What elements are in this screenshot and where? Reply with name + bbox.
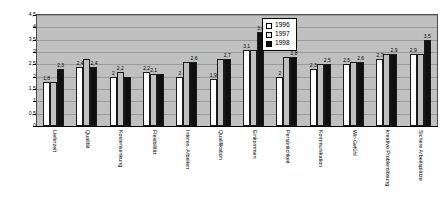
bar-1996[interactable] bbox=[410, 54, 417, 126]
bar-1997[interactable] bbox=[150, 74, 157, 126]
category-slot: Kostensenkung bbox=[104, 128, 137, 214]
bar-1998[interactable] bbox=[390, 54, 397, 126]
bar-1997[interactable] bbox=[417, 54, 424, 126]
x-axis-category-labels: LieferzeitQualitätKostensenkungFlexibili… bbox=[37, 128, 437, 214]
bar-slot bbox=[217, 15, 224, 126]
x-axis-baseline bbox=[36, 126, 438, 127]
bar-group: 1,82,3 bbox=[37, 15, 70, 126]
bar-1998[interactable] bbox=[190, 62, 197, 126]
bar-value-label: 2,2 bbox=[117, 66, 124, 71]
bar-value-label: 2 bbox=[179, 71, 182, 76]
category-slot: kreative Problemlösung bbox=[370, 128, 403, 214]
light-gray-square-swatch-icon bbox=[266, 32, 272, 38]
bar-slot: 1,8 bbox=[43, 15, 50, 126]
bar-1996[interactable] bbox=[76, 67, 83, 126]
chart-legend[interactable]: 1996 1997 1998 bbox=[262, 18, 297, 51]
bar-1997[interactable] bbox=[350, 62, 357, 126]
y-axis-tick-label: 0 bbox=[2, 123, 36, 128]
bar-slot bbox=[183, 15, 190, 126]
y-axis-tick-label: 3,5 bbox=[2, 37, 36, 42]
bar-value-label: 2,1 bbox=[150, 68, 157, 73]
bar-slot: 2 bbox=[176, 15, 183, 126]
bar-value-label: 2,3 bbox=[310, 63, 317, 68]
bar-1997[interactable] bbox=[217, 59, 224, 126]
bar-slot: 2,2 bbox=[143, 15, 150, 126]
bar-1996[interactable] bbox=[43, 82, 50, 126]
legend-label: 1996 bbox=[275, 22, 290, 29]
bar-1996[interactable] bbox=[176, 77, 183, 126]
bar-1996[interactable] bbox=[376, 59, 383, 126]
bar-value-label: 2,9 bbox=[390, 48, 397, 53]
category-slot: Sichere Arbeitsplätze bbox=[404, 128, 437, 214]
y-axis-tick-label: 2,5 bbox=[2, 62, 36, 67]
legend-entry-1997[interactable]: 1997 bbox=[266, 30, 290, 39]
bar-1997[interactable] bbox=[50, 82, 57, 126]
category-slot: Flexibilität bbox=[137, 128, 170, 214]
category-slot: Qualität bbox=[70, 128, 103, 214]
bar-value-label: 2,7 bbox=[224, 53, 231, 58]
bar-1998[interactable] bbox=[324, 64, 331, 126]
bar-value-label: 1,8 bbox=[43, 76, 50, 81]
bar-1998[interactable] bbox=[90, 67, 97, 126]
bar-value-label: 2,5 bbox=[343, 58, 350, 63]
bar-slot bbox=[317, 15, 324, 126]
bar-1996[interactable] bbox=[210, 79, 217, 126]
bar-value-label: 2,4 bbox=[77, 61, 84, 66]
bar-1997[interactable] bbox=[183, 62, 190, 126]
bar-1998[interactable] bbox=[290, 57, 297, 126]
bar-1997[interactable] bbox=[283, 57, 290, 126]
bar-groups: 1,82,32,42,422,22,22,122,61,92,73,13,822… bbox=[37, 15, 437, 126]
bar-value-label: 2,4 bbox=[91, 61, 98, 66]
category-slot: Qualifikation bbox=[204, 128, 237, 214]
bar-group: 2,32,5 bbox=[304, 15, 337, 126]
category-label: Flexibilität bbox=[151, 130, 157, 154]
bar-slot: 2,4 bbox=[76, 15, 83, 126]
bar-slot: 2,3 bbox=[310, 15, 317, 126]
bar-1998[interactable] bbox=[424, 40, 431, 126]
bar-1997[interactable] bbox=[250, 50, 257, 126]
category-label: Lieferzeit bbox=[51, 130, 57, 152]
bar-1996[interactable] bbox=[276, 77, 283, 126]
bar-1998[interactable] bbox=[357, 62, 364, 126]
bar-1997[interactable] bbox=[383, 54, 390, 126]
bar-slot: 2,5 bbox=[324, 15, 331, 126]
bar-slot: 2,6 bbox=[357, 15, 364, 126]
category-slot: Lieferzeit bbox=[37, 128, 70, 214]
bar-1998[interactable] bbox=[157, 74, 164, 126]
legend-entry-1996[interactable]: 1996 bbox=[266, 21, 290, 30]
bar-1996[interactable] bbox=[143, 72, 150, 126]
legend-entry-1998[interactable]: 1998 bbox=[266, 39, 290, 48]
bar-1996[interactable] bbox=[243, 50, 250, 126]
bar-slot: 2,6 bbox=[190, 15, 197, 126]
bar-slot: 2,1 bbox=[150, 15, 157, 126]
bar-1996[interactable] bbox=[343, 64, 350, 126]
bar-1998[interactable] bbox=[224, 59, 231, 126]
category-label: Qualifikation bbox=[217, 130, 223, 160]
bar-1998[interactable] bbox=[124, 77, 131, 126]
bar-1997[interactable] bbox=[83, 59, 90, 126]
category-label: Kostensenkung bbox=[117, 130, 123, 167]
bar-1998[interactable] bbox=[57, 69, 64, 126]
category-label: Wir-Gefühl bbox=[351, 130, 357, 156]
bar-1997[interactable] bbox=[117, 72, 124, 126]
bar-slot: 2,9 bbox=[390, 15, 397, 126]
category-slot: Kommunikation bbox=[304, 128, 337, 214]
category-slot: Wir-Gefühl bbox=[337, 128, 370, 214]
bar-value-label: 1,9 bbox=[210, 73, 217, 78]
bar-1996[interactable] bbox=[310, 69, 317, 126]
bar-1996[interactable] bbox=[110, 77, 117, 126]
bar-chart: 00,511,522,533,544,5 1,82,32,42,422,22,2… bbox=[0, 0, 448, 214]
bar-slot: 2,5 bbox=[343, 15, 350, 126]
black-square-swatch-icon bbox=[266, 41, 272, 47]
bar-1997[interactable] bbox=[317, 64, 324, 126]
bar-group: 22,6 bbox=[170, 15, 203, 126]
y-axis-tick-label: 3 bbox=[2, 49, 36, 54]
y-axis-tick-label: 4,5 bbox=[2, 12, 36, 17]
bar-value-label: 3,5 bbox=[424, 34, 431, 39]
category-slot: Persönlichkeit bbox=[270, 128, 303, 214]
bar-value-label: 2,9 bbox=[410, 48, 417, 53]
bar-slot: 2,7 bbox=[376, 15, 383, 126]
bar-slot bbox=[250, 15, 257, 126]
category-slot: Einkommen bbox=[237, 128, 270, 214]
category-label: Sichere Arbeitsplätze bbox=[417, 130, 423, 190]
